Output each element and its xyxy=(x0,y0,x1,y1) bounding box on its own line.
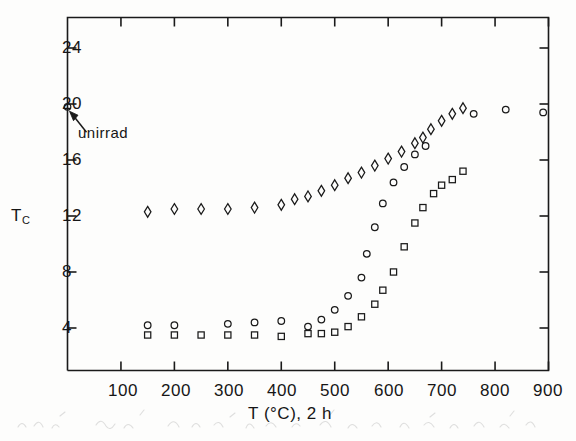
axes-frame xyxy=(68,18,549,371)
data-point xyxy=(171,204,178,215)
data-point xyxy=(380,200,387,207)
xtick-label-500: 500 xyxy=(320,381,350,401)
plot-canvas xyxy=(0,0,576,441)
data-point xyxy=(380,287,386,293)
data-point xyxy=(385,153,392,164)
data-point xyxy=(439,182,445,188)
y-axis-title-main: T xyxy=(11,206,22,225)
data-point xyxy=(398,146,405,157)
data-point xyxy=(145,332,151,338)
ytick-label-16: 16 xyxy=(62,150,82,170)
data-point xyxy=(331,307,338,314)
data-point xyxy=(305,323,312,330)
data-point xyxy=(372,301,378,307)
ytick-label-4: 4 xyxy=(62,318,72,338)
data-point xyxy=(291,194,298,205)
data-point xyxy=(225,204,232,215)
data-point xyxy=(412,151,419,158)
data-point xyxy=(428,124,435,135)
xtick-label-600: 600 xyxy=(374,381,404,401)
series-square-series xyxy=(145,168,467,339)
data-point xyxy=(278,199,285,210)
unirrad-label: unirrad xyxy=(78,124,128,141)
data-point xyxy=(372,224,379,231)
y-axis-title: TC xyxy=(11,206,30,226)
data-point xyxy=(345,293,352,300)
ytick-label-12: 12 xyxy=(62,206,82,226)
axis-ticks xyxy=(68,18,549,371)
data-point xyxy=(318,331,324,337)
xtick-label-400: 400 xyxy=(267,381,297,401)
ytick-label-8: 8 xyxy=(62,262,72,282)
data-point xyxy=(363,251,370,258)
data-point xyxy=(420,132,427,143)
xtick-label-800: 800 xyxy=(480,381,510,401)
data-point xyxy=(225,321,232,328)
data-markers xyxy=(64,103,546,340)
data-point xyxy=(358,314,364,320)
data-point xyxy=(332,329,338,335)
data-point xyxy=(278,318,285,325)
data-point xyxy=(345,324,351,330)
data-point xyxy=(251,332,257,338)
data-point xyxy=(358,167,365,178)
data-point xyxy=(401,244,407,250)
data-point xyxy=(422,143,429,150)
xtick-label-200: 200 xyxy=(161,381,191,401)
data-point xyxy=(372,160,379,171)
data-point xyxy=(502,106,509,113)
data-point xyxy=(345,173,352,184)
data-point xyxy=(305,191,312,202)
data-point xyxy=(251,202,258,213)
data-point xyxy=(390,269,396,275)
data-point xyxy=(460,103,467,114)
data-point xyxy=(318,316,325,323)
data-point xyxy=(449,108,456,119)
xtick-label-900: 900 xyxy=(533,381,563,401)
data-point xyxy=(331,180,338,191)
data-point xyxy=(144,206,151,217)
y-axis-title-subscript: C xyxy=(22,214,30,226)
data-point xyxy=(390,179,397,186)
data-point xyxy=(225,332,231,338)
data-point xyxy=(278,333,284,339)
data-point xyxy=(420,205,426,211)
xtick-label-100: 100 xyxy=(108,381,138,401)
data-point xyxy=(412,220,418,226)
xtick-label-700: 700 xyxy=(427,381,457,401)
data-point xyxy=(144,322,151,329)
xtick-label-300: 300 xyxy=(214,381,244,401)
data-point xyxy=(318,185,325,196)
data-point xyxy=(540,109,547,116)
x-axis-title: T (°C), 2 h xyxy=(248,404,332,424)
data-point xyxy=(198,332,204,338)
ytick-label-24: 24 xyxy=(62,38,82,58)
data-point xyxy=(171,322,178,329)
data-point xyxy=(251,319,258,326)
data-point xyxy=(438,115,445,126)
data-point xyxy=(412,138,419,149)
data-point xyxy=(460,168,466,174)
data-point xyxy=(401,164,408,171)
series-diamond-series xyxy=(144,103,466,217)
data-point xyxy=(449,177,455,183)
data-point xyxy=(430,191,436,197)
data-point xyxy=(358,274,365,281)
figure-container: 24 20 16 12 8 4 TC 100 200 300 400 500 6… xyxy=(0,0,576,441)
data-point xyxy=(171,332,177,338)
series-circle-series xyxy=(144,106,546,330)
data-point xyxy=(470,111,477,118)
ytick-label-20: 20 xyxy=(62,94,82,114)
data-point xyxy=(305,331,311,337)
data-point xyxy=(198,204,205,215)
